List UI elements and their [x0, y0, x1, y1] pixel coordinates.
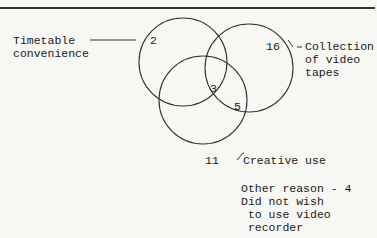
- label-timetable-2: convenience: [13, 47, 89, 60]
- count-collection-only: 16: [266, 40, 280, 53]
- count-timetable-only: 2: [150, 34, 157, 47]
- label-timetable-1: Timetable: [13, 34, 75, 47]
- label-collection-1: Collection: [305, 40, 374, 53]
- circle-collection: [205, 24, 293, 112]
- count-collection-creative: 5: [234, 100, 241, 113]
- note-other-reason: Other reason - 4: [241, 182, 351, 195]
- label-collection-2: of video: [305, 53, 360, 66]
- label-creative: Creative use: [243, 154, 326, 167]
- note-did-not-wish-4: more: [241, 234, 276, 238]
- note-did-not-wish-1: Did not wish: [241, 195, 324, 208]
- count-all-three: 3: [210, 82, 217, 95]
- note-did-not-wish-2: to use video: [241, 208, 331, 221]
- label-collection-3: tapes: [305, 66, 340, 79]
- count-creative-only: 11: [205, 154, 219, 167]
- note-did-not-wish-3: recorder: [241, 221, 303, 234]
- leader-collection-tick: [288, 40, 293, 47]
